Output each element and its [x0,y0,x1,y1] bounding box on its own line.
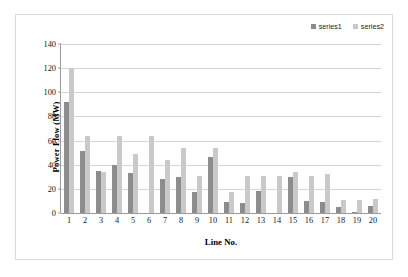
x-tick-label: 16 [301,213,317,227]
chart-figure: series1 series2 Power Flow (MW) 02040608… [15,14,393,260]
bar-series2-12[interactable] [245,176,250,213]
x-tick-label: 1 [61,213,77,227]
bar-group[interactable] [333,44,349,213]
bar-series2-3[interactable] [101,172,106,213]
x-tick-label: 18 [333,213,349,227]
bar-group[interactable] [61,44,77,213]
plot-canvas: 020406080100120140 [61,44,381,213]
bar-group[interactable] [285,44,301,213]
bar-group[interactable] [77,44,93,213]
bar-series2-4[interactable] [117,136,122,213]
bar-series1-7[interactable] [160,179,165,213]
bar-series1-11[interactable] [224,202,229,213]
x-axis-title: Line No. [61,237,381,247]
y-tick-label: 140 [43,40,56,49]
bar-series2-9[interactable] [197,176,202,213]
x-tick-label: 20 [365,213,381,227]
bar-series2-7[interactable] [165,160,170,213]
x-tick-label: 15 [285,213,301,227]
bar-series1-15[interactable] [288,177,293,213]
bar-group[interactable] [237,44,253,213]
bar-series2-1[interactable] [69,68,74,213]
bar-group[interactable] [301,44,317,213]
plot-area: 020406080100120140 [61,44,381,213]
bar-group[interactable] [93,44,109,213]
legend-swatch-series2 [353,24,358,29]
y-tick-label: 40 [48,160,56,169]
x-tick-label: 9 [189,213,205,227]
bar-series1-3[interactable] [96,171,101,213]
bar-series2-5[interactable] [133,154,138,213]
bar-group[interactable] [221,44,237,213]
x-tick-label: 19 [349,213,365,227]
bar-group[interactable] [141,44,157,213]
bar-group[interactable] [253,44,269,213]
bar-group[interactable] [317,44,333,213]
bar-series2-10[interactable] [213,148,218,213]
x-tick-label: 8 [173,213,189,227]
bar-group[interactable] [125,44,141,213]
bar-series1-12[interactable] [240,203,245,213]
bar-series2-15[interactable] [293,172,298,213]
y-tick-label: 20 [48,184,56,193]
bar-series2-8[interactable] [181,148,186,213]
x-tick-label: 11 [221,213,237,227]
bar-series1-13[interactable] [256,191,261,213]
bar-group[interactable] [189,44,205,213]
bar-series2-11[interactable] [229,192,234,213]
y-tick-label: 120 [43,64,56,73]
x-tick-label: 6 [141,213,157,227]
x-tick-label: 3 [93,213,109,227]
x-tick-label: 13 [253,213,269,227]
bar-group[interactable] [173,44,189,213]
legend-entry-series2[interactable]: series2 [353,22,384,31]
bar-series1-9[interactable] [192,192,197,213]
bar-series1-8[interactable] [176,177,181,213]
bar-series1-16[interactable] [304,201,309,213]
bar-series2-19[interactable] [357,200,362,213]
bar-series1-20[interactable] [368,206,373,213]
legend-entry-series1[interactable]: series1 [311,22,342,31]
bar-group[interactable] [109,44,125,213]
bar-series1-4[interactable] [112,165,117,213]
bar-series1-5[interactable] [128,173,133,213]
x-tick-label: 10 [205,213,221,227]
bar-series1-2[interactable] [80,151,85,213]
bar-series1-17[interactable] [320,202,325,213]
bar-series1-1[interactable] [64,102,69,213]
bar-group[interactable] [205,44,221,213]
legend-swatch-series1 [311,24,316,29]
x-tick-label: 4 [109,213,125,227]
y-tick-label: 60 [48,136,56,145]
bar-series1-10[interactable] [208,157,213,213]
y-tick-label: 80 [48,112,56,121]
legend-label-series2: series2 [361,22,384,31]
bar-groups [61,44,381,213]
bar-series2-6[interactable] [149,136,154,213]
bar-series2-2[interactable] [85,136,90,213]
y-tick-label: 0 [52,209,56,218]
bar-group[interactable] [349,44,365,213]
x-tick-label: 12 [237,213,253,227]
bar-series2-20[interactable] [373,199,378,213]
chart-legend: series1 series2 [311,22,384,31]
bar-group[interactable] [269,44,285,213]
bar-series2-16[interactable] [309,176,314,213]
bar-series2-17[interactable] [325,174,330,213]
x-tick-label: 5 [125,213,141,227]
bar-group[interactable] [157,44,173,213]
x-axis-ticks: 1234567891011121314151617181920 [61,213,381,227]
x-tick-label: 7 [157,213,173,227]
bar-series2-13[interactable] [261,176,266,213]
x-tick-label: 2 [77,213,93,227]
x-tick-label: 14 [269,213,285,227]
bar-series2-18[interactable] [341,200,346,213]
x-tick-label: 17 [317,213,333,227]
bar-group[interactable] [365,44,381,213]
y-tick-label: 100 [43,88,56,97]
bar-series2-14[interactable] [277,176,282,213]
legend-label-series1: series1 [319,22,342,31]
